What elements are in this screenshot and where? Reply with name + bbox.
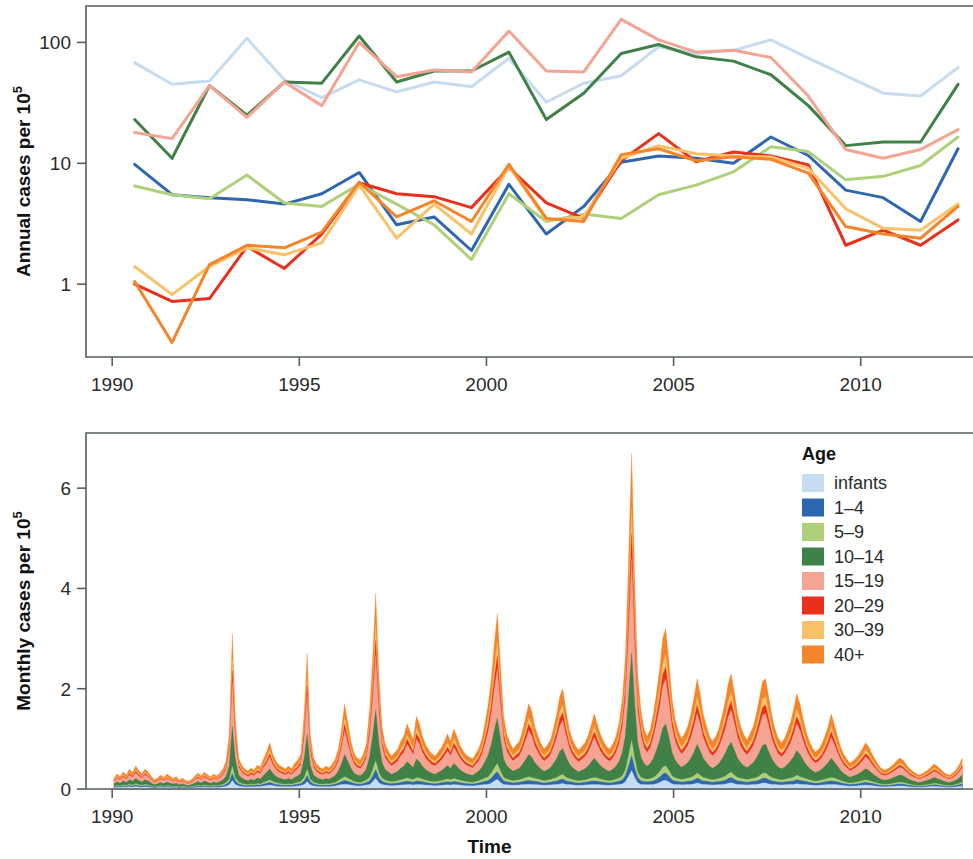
annual-xtick-label: 2010 — [840, 374, 882, 395]
annual-yaxis-title: Annual cases per 105 — [10, 86, 34, 277]
legend-item[interactable]: infants — [802, 473, 887, 493]
monthly-xtick-label: 1990 — [91, 806, 133, 827]
monthly-xtick-label: 2000 — [465, 806, 507, 827]
legend-item[interactable]: 20–29 — [802, 596, 884, 616]
legend-swatch — [802, 474, 824, 492]
monthly-ytick-label: 4 — [60, 578, 71, 599]
legend-item[interactable]: 15–19 — [802, 571, 884, 591]
two-panel-epidemic-chart: 11010019901995200020052010Annual cases p… — [0, 0, 973, 859]
legend: Ageinfants1–45–910–1415–1920–2930–3940+ — [802, 444, 887, 665]
monthly-xtick-label: 1995 — [278, 806, 320, 827]
legend-item[interactable]: 1–4 — [802, 498, 864, 518]
legend-item[interactable]: 40+ — [802, 645, 865, 665]
monthly-yaxis-title: Monthly cases per 105 — [10, 511, 34, 710]
legend-swatch — [802, 621, 824, 639]
legend-title: Age — [802, 444, 836, 464]
legend-item-label: 20–29 — [834, 596, 884, 616]
monthly-area-band — [114, 559, 962, 789]
legend-item-label: 40+ — [834, 645, 865, 665]
annual-ytick-label: 10 — [50, 153, 71, 174]
legend-item-label: infants — [834, 473, 887, 493]
legend-swatch — [802, 572, 824, 590]
legend-swatch — [802, 499, 824, 517]
annual-xtick-label: 1995 — [278, 374, 320, 395]
monthly-xtick-label: 2010 — [840, 806, 882, 827]
annual-series-line — [135, 137, 958, 250]
legend-item-label: 30–39 — [834, 620, 884, 640]
legend-swatch — [802, 646, 824, 664]
monthly-xtick-label: 2005 — [652, 806, 694, 827]
figure-root: 11010019901995200020052010Annual cases p… — [0, 0, 973, 859]
xaxis-title: Time — [467, 836, 511, 857]
annual-series-line — [135, 19, 958, 158]
legend-swatch — [802, 548, 824, 566]
annual-series-line — [135, 36, 958, 158]
legend-item[interactable]: 30–39 — [802, 620, 884, 640]
monthly-panel: 024619901995200020052010Monthly cases pe… — [10, 433, 973, 857]
legend-item-label: 15–19 — [834, 571, 884, 591]
legend-item[interactable]: 10–14 — [802, 547, 884, 567]
legend-item-label: 10–14 — [834, 547, 884, 567]
annual-ytick-label: 100 — [39, 32, 71, 53]
annual-xtick-label: 2005 — [652, 374, 694, 395]
annual-panel: 11010019901995200020052010Annual cases p… — [10, 6, 973, 395]
monthly-ytick-label: 0 — [60, 779, 71, 800]
annual-xtick-label: 2000 — [465, 374, 507, 395]
legend-swatch — [802, 597, 824, 615]
annual-panel-border — [86, 6, 973, 357]
legend-item-label: 1–4 — [834, 498, 864, 518]
monthly-ytick-label: 2 — [60, 679, 71, 700]
monthly-ytick-label: 6 — [60, 478, 71, 499]
annual-xtick-label: 1990 — [91, 374, 133, 395]
legend-item-label: 5–9 — [834, 522, 864, 542]
legend-swatch — [802, 523, 824, 541]
annual-ytick-label: 1 — [60, 274, 71, 295]
legend-item[interactable]: 5–9 — [802, 522, 864, 542]
